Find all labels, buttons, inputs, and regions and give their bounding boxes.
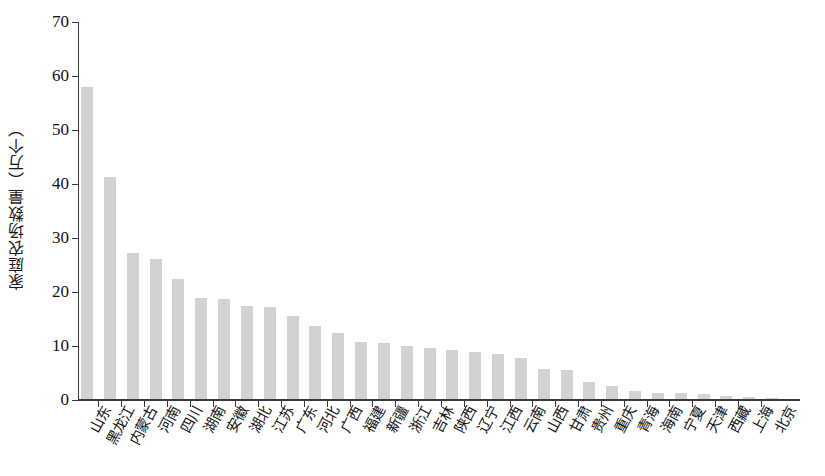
bar [241,306,253,399]
y-axis-tick-label: 0 [61,390,70,410]
bar [287,316,299,399]
bar [720,396,732,399]
y-axis-tick-mark [72,76,78,77]
bar [698,394,710,399]
bar [264,307,276,399]
bar [492,354,504,399]
bar [355,342,367,399]
bar-chart: 家庭农场数量（万个） 010203040506070 山东黑龙江内蒙古河南四川湖… [0,0,825,476]
x-axis-labels: 山东黑龙江内蒙古河南四川湖南安徽湖北江苏广东河北广西福建新疆浙江吉林陕西辽宁江西… [78,402,818,476]
bar [195,298,207,399]
y-axis-tick-label: 10 [52,336,69,356]
bar [515,358,527,399]
y-axis-tick-mark [72,22,78,23]
y-axis-tick-label: 50 [52,120,69,140]
bar [629,391,641,399]
bar [309,326,321,399]
plot-area: 010203040506070 [78,22,800,400]
y-axis-title-text: 家庭农场数量（万个） [6,120,30,290]
bar [81,87,93,399]
bar [583,382,595,399]
y-axis-tick-label: 30 [52,228,69,248]
y-axis-tick-label: 70 [52,12,69,32]
bar [150,259,162,399]
y-axis-tick-label: 20 [52,282,69,302]
bar [424,348,436,399]
bar [675,393,687,399]
bar [172,279,184,399]
bar [538,369,550,399]
bar [469,352,481,399]
bar [218,299,230,399]
y-axis-tick-mark [72,184,78,185]
bar [127,253,139,399]
y-axis-tick-mark [72,346,78,347]
bar [332,333,344,399]
y-axis-tick-label: 60 [52,66,69,86]
bar [561,370,573,399]
bar [606,386,618,399]
bar [652,393,664,399]
x-axis-tick-label: 北京 [768,402,799,436]
bar [401,346,413,399]
y-axis-tick-mark [72,238,78,239]
y-axis-tick-mark [72,292,78,293]
bar [766,398,778,399]
y-axis-line [78,22,79,400]
bar [104,177,116,399]
y-axis-title: 家庭农场数量（万个） [0,0,36,410]
y-axis-tick-mark [72,400,78,401]
bar [743,397,755,399]
bar [378,343,390,399]
bar [446,350,458,399]
y-axis-tick-label: 40 [52,174,69,194]
y-axis-tick-mark [72,130,78,131]
